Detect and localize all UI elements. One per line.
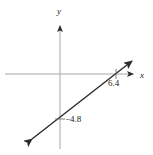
coordinate-plane-svg: x y 6.4 −4.8: [0, 0, 153, 155]
y-intercept-label: −4.8: [65, 114, 82, 124]
y-axis-label: y: [56, 6, 61, 16]
x-axis-label: x: [139, 70, 144, 80]
x-intercept-label: 6.4: [108, 78, 120, 88]
graph-figure: x y 6.4 −4.8: [0, 0, 153, 155]
plotted-line: [32, 61, 132, 139]
